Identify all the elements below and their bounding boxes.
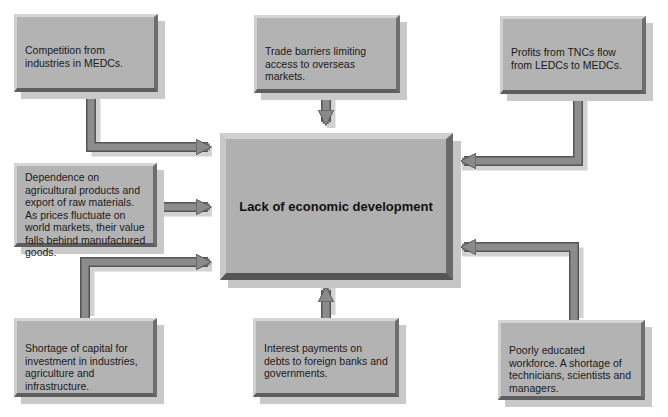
cause-text: Trade barriers limiting access to overse…	[265, 45, 390, 83]
cause-text: Competition from industries in MEDCs.	[25, 44, 148, 69]
cause-box-tnc-profits: Profits from TNCs flow from LEDCs to MED…	[500, 16, 646, 94]
central-label: Lack of economic development	[239, 199, 433, 214]
cause-text: Poorly educated workforce. A shortage of…	[509, 344, 635, 394]
central-box: Lack of economic development	[220, 133, 453, 280]
cause-text: Profits from TNCs flow from LEDCs to MED…	[511, 46, 636, 71]
cause-box-interest-payments: Interest payments on debts to foreign ba…	[253, 318, 399, 397]
cause-box-agri-dependence: Dependence on agricultural products and …	[14, 163, 157, 247]
cause-text: Shortage of capital for investment in in…	[25, 342, 147, 392]
cause-box-capital-shortage: Shortage of capital for investment in in…	[14, 318, 157, 397]
cause-box-education: Poorly educated workforce. A shortage of…	[498, 320, 645, 400]
cause-text: Interest payments on debts to foreign ba…	[264, 342, 389, 380]
cause-text: Dependence on agricultural products and …	[25, 171, 147, 259]
cause-box-trade-barriers: Trade barriers limiting access to overse…	[254, 15, 400, 93]
cause-box-competition: Competition from industries in MEDCs.	[14, 14, 158, 92]
